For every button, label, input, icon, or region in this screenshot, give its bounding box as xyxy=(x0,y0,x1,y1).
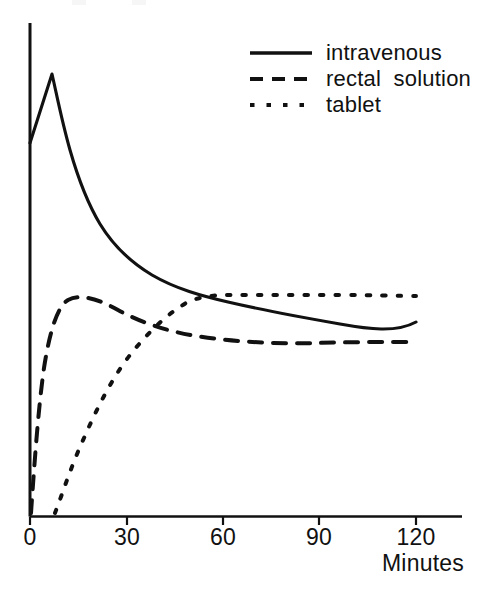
legend-item-rectal-solution: rectal solution xyxy=(248,66,472,92)
x-tick-label-120: 120 xyxy=(390,526,442,549)
x-tick-label-90: 90 xyxy=(300,526,338,549)
x-tick-label-60: 60 xyxy=(204,526,242,549)
x-tick-label-0: 0 xyxy=(18,526,42,549)
legend-label-intravenous: intravenous xyxy=(326,42,442,64)
dashed-line-icon xyxy=(248,71,314,87)
legend-label-tablet: tablet xyxy=(326,94,381,116)
solid-line-icon xyxy=(248,45,314,61)
chart-figure: 0 30 60 90 120 Minutes intravenous recta… xyxy=(0,0,480,589)
x-axis-title: Minutes xyxy=(382,552,464,575)
legend-label-rectal-solution: rectal solution xyxy=(326,68,471,90)
legend-item-tablet: tablet xyxy=(248,92,472,118)
legend: intravenous rectal solution tablet xyxy=(248,40,472,118)
dotted-line-icon xyxy=(248,97,314,113)
legend-item-intravenous: intravenous xyxy=(248,40,472,66)
series-line-rectal-solution xyxy=(31,297,416,513)
x-tick-label-30: 30 xyxy=(108,526,146,549)
data-series-group xyxy=(30,74,416,513)
